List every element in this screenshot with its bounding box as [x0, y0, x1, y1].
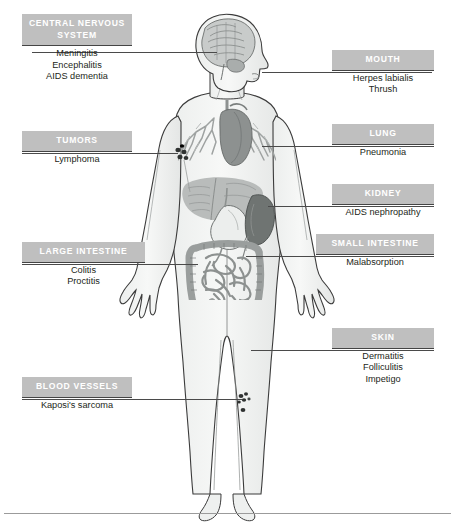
callout-conditions-kidney: AIDS nephropathy: [332, 205, 434, 219]
callout-conditions-lung: Pneumonia: [332, 145, 434, 159]
bottom-divider: [4, 513, 451, 514]
callout-heading-central-nervous-system: CENTRAL NERVOUS SYSTEM: [22, 14, 132, 45]
callout-heading-kidney: KIDNEY: [332, 184, 434, 204]
callout-heading-skin: SKIN: [332, 328, 434, 348]
callout-heading-blood-vessels: BLOOD VESSELS: [22, 377, 132, 397]
callout-conditions-blood-vessels: Kaposi's sarcoma: [22, 398, 132, 412]
callout-heading-mouth: MOUTH: [332, 50, 434, 70]
callout-large-intestine: LARGE INTESTINE Colitis Proctitis: [22, 242, 145, 288]
callout-heading-small-intestine: SMALL INTESTINE: [316, 234, 434, 254]
callout-small-intestine: SMALL INTESTINE Malabsorption: [316, 234, 434, 268]
callout-heading-lung: LUNG: [332, 124, 434, 144]
callout-conditions-tumors: Lymphoma: [22, 152, 132, 166]
callout-heading-tumors: TUMORS: [22, 131, 132, 151]
callout-tumors: TUMORS Lymphoma: [22, 131, 132, 165]
callout-lung: LUNG Pneumonia: [332, 124, 434, 158]
callout-conditions-central-nervous-system: Meningitis Encephalitis AIDS dementia: [22, 46, 132, 83]
callout-conditions-skin: Dermatitis Folliculitis Impetigo: [332, 349, 434, 386]
callout-conditions-small-intestine: Malabsorption: [316, 255, 434, 269]
callout-kidney: KIDNEY AIDS nephropathy: [332, 184, 434, 218]
callout-conditions-mouth: Herpes labialis Thrush: [332, 71, 434, 96]
callout-central-nervous-system: CENTRAL NERVOUS SYSTEM Meningitis Enceph…: [22, 14, 132, 83]
callout-heading-large-intestine: LARGE INTESTINE: [22, 242, 145, 262]
callout-skin: SKIN Dermatitis Folliculitis Impetigo: [332, 328, 434, 385]
callout-conditions-large-intestine: Colitis Proctitis: [22, 263, 145, 288]
diagram-canvas: CENTRAL NERVOUS SYSTEM Meningitis Enceph…: [0, 0, 455, 528]
callout-blood-vessels: BLOOD VESSELS Kaposi's sarcoma: [22, 377, 132, 411]
callout-mouth: MOUTH Herpes labialis Thrush: [332, 50, 434, 96]
